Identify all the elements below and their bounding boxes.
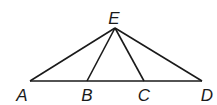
point-label-B: B	[81, 87, 92, 104]
point-label-C: C	[138, 87, 150, 104]
point-label-A: A	[16, 87, 27, 104]
point-label-D: D	[201, 87, 213, 104]
point-label-E: E	[108, 10, 119, 27]
segment-ED	[115, 28, 202, 81]
segment-EA	[30, 28, 115, 81]
geometry-diagram: E A B C D	[0, 0, 217, 105]
